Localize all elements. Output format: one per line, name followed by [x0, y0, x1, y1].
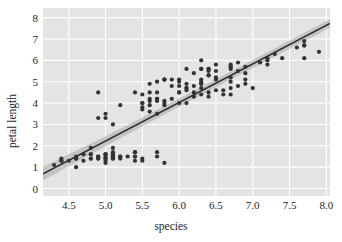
x-tick-label: 7.0 [233, 199, 273, 211]
x-tick-label: 8.0 [306, 199, 342, 211]
x-tick-label: 5.5 [122, 199, 162, 211]
scatter-plot-figure: 012345678 4.55.05.56.06.57.07.58.0 speci… [0, 0, 342, 242]
y-axis-label: petal length [6, 71, 18, 171]
x-tick-label: 4.5 [49, 199, 89, 211]
x-tick-label: 5.0 [86, 199, 126, 211]
x-tick-label: 6.0 [159, 199, 199, 211]
x-axis-tick-labels: 4.55.05.56.06.57.07.58.0 [0, 0, 342, 242]
x-tick-label: 7.5 [270, 199, 310, 211]
x-tick-label: 6.5 [196, 199, 236, 211]
x-axis-label: species [0, 220, 342, 232]
